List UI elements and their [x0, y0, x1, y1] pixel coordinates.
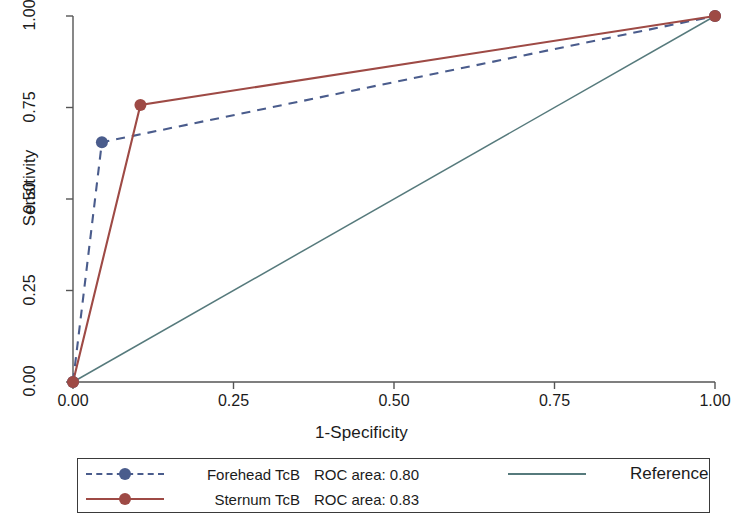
plot-area: 0.000.250.500.751.00 0.000.250.500.751.0… [0, 0, 723, 445]
roc-series-group [73, 16, 715, 382]
legend-marker-forehead [119, 468, 131, 480]
legend-swatch-forehead [86, 466, 164, 482]
roc-point-sternum-tcb [134, 99, 146, 111]
legend-row-sternum: Sternum TcB ROC area: 0.83 [86, 486, 419, 512]
legend-row-forehead: Forehead TcB ROC area: 0.80 [86, 461, 419, 487]
legend-line-reference [508, 473, 586, 475]
x-tick-label: 0.75 [520, 392, 590, 410]
roc-plot-svg [0, 0, 723, 445]
legend-auc-sternum: ROC area: 0.83 [314, 491, 419, 508]
chart-legend: Forehead TcB ROC area: 0.80 Sternum TcB … [77, 458, 710, 513]
legend-auc-forehead: ROC area: 0.80 [314, 466, 419, 483]
x-tick-label: 0.00 [38, 392, 108, 410]
y-tick-label: 1.00 [21, 0, 39, 45]
x-axis-tick-marks [73, 382, 715, 389]
legend-marker-sternum [119, 493, 131, 505]
roc-point-sternum-tcb [709, 10, 721, 22]
y-axis-tick-marks [66, 16, 73, 382]
legend-label-forehead: Forehead TcB [172, 466, 300, 483]
legend-swatch-sternum [86, 491, 164, 507]
x-tick-label: 0.50 [359, 392, 429, 410]
x-axis-title: 1-Specificity [0, 423, 723, 443]
y-axis-title: Sensitivity [20, 108, 40, 268]
y-tick-label: 0.25 [21, 260, 39, 320]
roc-line-reference [73, 16, 715, 382]
legend-row-reference: Reference [508, 461, 708, 487]
roc-point-sternum-tcb [67, 376, 79, 388]
legend-swatch-reference [508, 466, 586, 482]
legend-label-sternum: Sternum TcB [172, 491, 300, 508]
y-tick-label: 0.00 [21, 351, 39, 411]
roc-point-forehead-tcb [96, 136, 108, 148]
x-tick-label: 1.00 [680, 392, 735, 410]
legend-label-reference: Reference [630, 464, 708, 484]
x-tick-label: 0.25 [199, 392, 269, 410]
